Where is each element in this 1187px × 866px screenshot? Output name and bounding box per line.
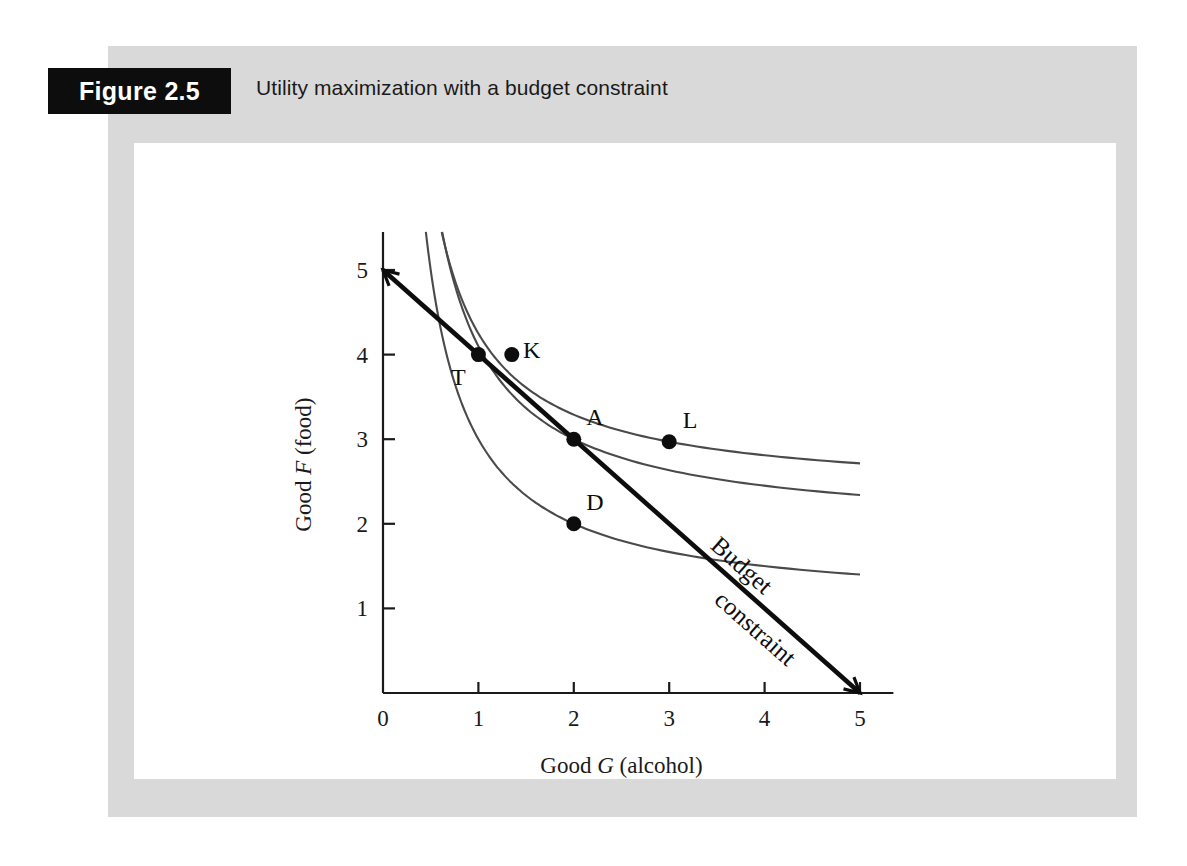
y-tick-label: 5 [357, 258, 369, 283]
chart-area: 01234512345 TKALD Budgetconstraint Good … [134, 143, 1116, 779]
indifference-curve-chart: 01234512345 TKALD Budgetconstraint Good … [134, 143, 1116, 779]
data-point-t [471, 347, 486, 362]
budget-constraint-line [383, 270, 860, 693]
y-tick-label: 1 [357, 596, 369, 621]
point-label-a: A [586, 404, 604, 430]
x-tick-label: 0 [377, 706, 389, 731]
y-axis-title: Good F (food) [291, 397, 316, 531]
x-axis-title-text: Good G (alcohol) [540, 753, 702, 778]
point-label-l: L [683, 407, 698, 433]
indifference-curve [426, 232, 860, 575]
data-point-k [504, 347, 519, 362]
x-tick-label: 3 [663, 706, 675, 731]
data-point-d [566, 516, 581, 531]
data-point-l [662, 434, 677, 449]
y-tick-label: 2 [357, 512, 369, 537]
x-tick-label: 4 [759, 706, 771, 731]
figure-number-label: Figure 2.5 [79, 77, 200, 106]
indifference-curve [442, 232, 860, 495]
data-point-a [566, 432, 581, 447]
y-axis-title-rotated: Good F (food) [291, 397, 316, 531]
point-label-t: T [451, 364, 466, 390]
indifference-curves [426, 232, 860, 575]
x-tick-label: 2 [568, 706, 580, 731]
figure-root: Figure 2.5 Utility maximization with a b… [0, 0, 1187, 866]
y-tick-label: 4 [357, 343, 369, 368]
x-tick-label: 5 [854, 706, 866, 731]
y-tick-label: 3 [357, 427, 369, 452]
indifference-curve [442, 232, 860, 463]
point-label-k: K [523, 337, 541, 363]
y-axis-title-text: Good F (food) [291, 397, 316, 531]
x-axis-title: Good G (alcohol) [540, 753, 702, 778]
point-label-d: D [586, 489, 603, 515]
figure-number-box: Figure 2.5 [48, 68, 231, 114]
x-tick-label: 1 [473, 706, 485, 731]
figure-caption: Utility maximization with a budget const… [256, 76, 668, 100]
